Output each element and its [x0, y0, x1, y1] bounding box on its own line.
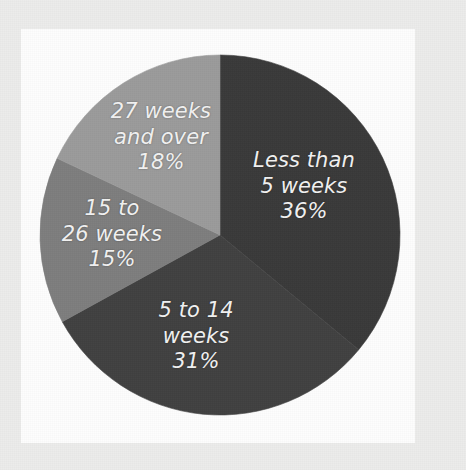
- pie-label-15-to-26-weeks: 15 to 26 weeks 15%: [48, 196, 176, 273]
- pie-label-5-to-14-weeks: 5 to 14 weeks 31%: [131, 298, 261, 375]
- figure-root: Less than 5 weeks 36% 5 to 14 weeks 31% …: [0, 0, 466, 470]
- pie-chart: Less than 5 weeks 36% 5 to 14 weeks 31% …: [0, 0, 466, 470]
- pie-label-27-weeks-and-over: 27 weeks and over 18%: [90, 99, 232, 176]
- pie-label-less-than-5-weeks: Less than 5 weeks 36%: [236, 148, 372, 225]
